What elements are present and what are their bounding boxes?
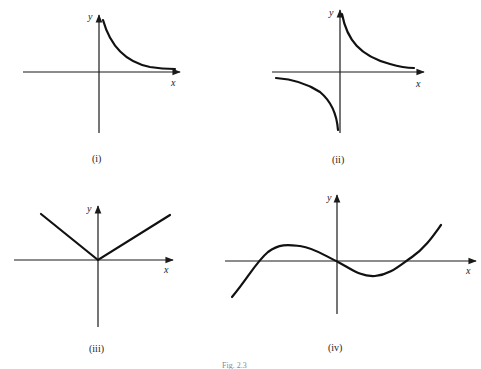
panel-label: (iv) [328, 342, 342, 354]
panel-label: (iii) [89, 343, 104, 355]
x-axis-label: x [163, 264, 169, 275]
y-axis-label: y [326, 192, 332, 203]
panel-label: (i) [92, 153, 101, 165]
y-axis-label: y [87, 11, 93, 22]
panel-label: (ii) [332, 154, 344, 166]
panel-iv: y x (iv) [225, 192, 476, 354]
figure-canvas: y x (i) y x (ii) y x (iii) y x (iv) Fig.… [0, 0, 481, 369]
hyperbola-branch [103, 20, 175, 69]
hyperbola-third-quadrant [276, 78, 338, 130]
x-axis-label: x [170, 77, 176, 88]
panel-iii: y x (iii) [14, 203, 173, 355]
figure-caption: Fig. 2.3 [222, 361, 247, 369]
x-axis-label: x [415, 78, 421, 89]
v-shape-curve [41, 214, 170, 260]
panel-ii: y x (ii) [272, 7, 424, 166]
y-axis-label: y [328, 7, 334, 18]
panel-i: y x (i) [23, 11, 180, 165]
x-axis-label: x [465, 265, 471, 276]
hyperbola-first-quadrant [342, 14, 414, 68]
y-axis-label: y [86, 203, 92, 214]
